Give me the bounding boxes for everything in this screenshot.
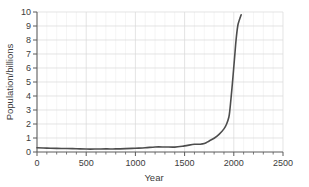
y-tick-label: 6 (26, 63, 31, 73)
axis-tick-marks (33, 12, 283, 156)
y-axis-tick-labels: 012345678910 (21, 7, 31, 157)
major-gridlines (37, 12, 283, 152)
y-tick-label: 2 (26, 119, 31, 129)
x-tick-label: 2500 (273, 158, 293, 168)
x-tick-label: 1500 (175, 158, 195, 168)
y-tick-label: 8 (26, 35, 31, 45)
population-growth-chart: 05001000150020002500 012345678910 Year P… (0, 0, 309, 187)
y-tick-label: 3 (26, 105, 31, 115)
y-tick-label: 7 (26, 49, 31, 59)
y-tick-label: 10 (21, 7, 31, 17)
y-tick-label: 5 (26, 77, 31, 87)
y-tick-label: 1 (26, 133, 31, 143)
chart-canvas: 05001000150020002500 012345678910 Year P… (0, 0, 309, 187)
x-tick-label: 2000 (224, 158, 244, 168)
x-tick-label: 0 (34, 158, 39, 168)
y-axis-title: Population/billions (4, 43, 15, 120)
x-axis-title: Year (144, 172, 163, 183)
x-tick-label: 500 (79, 158, 94, 168)
y-tick-label: 0 (26, 147, 31, 157)
y-tick-label: 4 (26, 91, 31, 101)
y-tick-label: 9 (26, 21, 31, 31)
x-axis-tick-labels: 05001000150020002500 (34, 158, 293, 168)
x-tick-label: 1000 (125, 158, 145, 168)
